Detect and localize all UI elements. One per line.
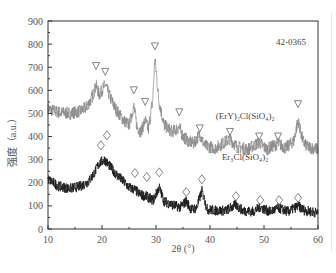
y-tick-label: 800 [28,39,43,50]
page-edge [331,12,332,252]
series-label-erY: (ErY)₂Cl(SiO₄)₂ [216,111,275,121]
triangle-marker [226,128,233,135]
triangle-marker [176,109,183,116]
diamond-marker [97,141,104,150]
diamond-marker [156,168,163,177]
x-tick-label: 60 [313,234,323,245]
y-tick-label: 700 [28,62,43,73]
diamond-marker [103,131,110,140]
triangle-marker [295,101,302,108]
y-tick-label: 400 [28,131,43,142]
y-tick-label: 0 [38,224,43,235]
triangle-marker [275,133,282,140]
reference-card-label: 42-0365 [276,37,306,47]
diamond-marker [295,193,302,202]
x-tick-label: 10 [43,234,53,245]
triangle-marker [102,68,109,75]
triangle-marker [93,63,100,70]
x-tick-label: 50 [259,234,269,245]
diamond-marker [183,188,190,197]
triangle-marker [196,125,203,132]
y-tick-label: 100 [28,200,43,211]
triangle-marker [142,98,149,105]
y-tick-label: 300 [28,154,43,165]
diamond-marker [198,175,205,184]
x-tick-label: 30 [151,234,161,245]
y-tick-label: 900 [28,16,43,27]
x-tick-label: 20 [97,234,107,245]
y-tick-label: 500 [28,108,43,119]
y-tick-label: 200 [28,177,43,188]
y-axis-title: 强度（a.u.） [6,113,18,167]
xrd-chart: 102030405060 010020030040050060070080090… [0,0,336,273]
series-line-0 [48,59,318,155]
plot-area [48,21,318,229]
y-tick-label: 600 [28,85,43,96]
triangle-marker [130,87,137,94]
x-tick-label: 40 [205,234,215,245]
triangle-marker [151,43,158,50]
series-line-1 [48,157,318,218]
triangle-marker [256,133,263,140]
diamond-marker [143,173,150,182]
x-axis: 102030405060 [43,225,323,245]
series-label-er3cl: Er₃Cl(SiO₄)₂ [222,152,268,162]
diamond-marker [276,196,283,205]
diamond-marker [232,192,239,201]
x-axis-title: 2θ (°) [172,243,195,255]
diamond-marker [131,169,138,178]
diamond-marker [257,196,264,205]
